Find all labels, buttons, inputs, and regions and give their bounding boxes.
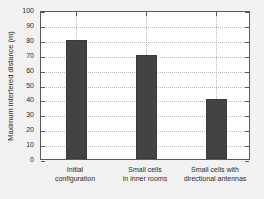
y-tick-label: 10	[0, 141, 40, 148]
y-tick-mark	[41, 72, 45, 73]
bar	[66, 40, 87, 159]
y-tick-mark-right	[245, 42, 249, 43]
y-tick-mark	[41, 131, 45, 132]
bar	[136, 55, 157, 159]
y-tick-mark-right	[245, 72, 249, 73]
figure-canvas: Maximum interfered distance (m) 01020304…	[0, 0, 264, 199]
y-tick-mark-right	[245, 131, 249, 132]
y-tick-label: 70	[0, 52, 40, 59]
x-tick-label: Small cells withdirectional antennas	[170, 166, 260, 183]
y-tick-mark	[41, 42, 45, 43]
y-tick-mark-right	[245, 12, 249, 13]
y-tick-label: 40	[0, 96, 40, 103]
y-tick-mark	[41, 57, 45, 58]
x-tick-mark-top	[146, 12, 147, 16]
y-tick-label: 100	[0, 7, 40, 14]
x-tick-label-line: directional antennas	[170, 175, 260, 184]
bar	[206, 99, 227, 159]
y-tick-label: 0	[0, 156, 40, 163]
y-tick-mark	[41, 146, 45, 147]
y-tick-mark	[41, 27, 45, 28]
y-tick-mark	[41, 87, 45, 88]
y-tick-mark	[41, 116, 45, 117]
y-tick-label: 50	[0, 82, 40, 89]
x-tick-mark-top	[216, 12, 217, 16]
plot-area	[40, 11, 250, 160]
gridline-horizontal	[41, 27, 249, 28]
y-tick-label: 60	[0, 67, 40, 74]
x-tick-mark-top	[76, 12, 77, 16]
y-tick-mark-right	[245, 146, 249, 147]
y-tick-mark-right	[245, 101, 249, 102]
y-tick-label: 30	[0, 111, 40, 118]
x-tick-label-line: Small cells with	[170, 166, 260, 175]
y-tick-label: 20	[0, 126, 40, 133]
y-tick-mark-right	[245, 161, 249, 162]
y-tick-mark-right	[245, 87, 249, 88]
y-tick-mark	[41, 161, 45, 162]
y-tick-mark-right	[245, 116, 249, 117]
y-tick-mark	[41, 101, 45, 102]
y-tick-label: 80	[0, 37, 40, 44]
y-tick-label: 90	[0, 22, 40, 29]
y-tick-mark-right	[245, 27, 249, 28]
y-tick-mark	[41, 12, 45, 13]
y-tick-mark-right	[245, 57, 249, 58]
